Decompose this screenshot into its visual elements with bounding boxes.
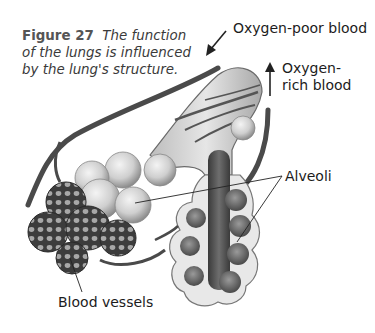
arrow-oxygen-rich-icon [265,62,275,96]
label-alveoli: Alveoli [285,168,332,185]
label-blood-vessels: Blood vessels [58,294,153,311]
arrow-oxygen-poor-icon [206,31,226,56]
label-oxygen-poor-blood: Oxygen-poor blood [233,20,367,37]
lung-illustration [0,0,375,333]
label-oxygen-rich-blood: Oxygen-rich blood [282,60,362,94]
